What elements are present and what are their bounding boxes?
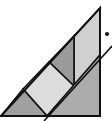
dot-marker [105,32,109,36]
geometry-diagram [0,0,112,121]
